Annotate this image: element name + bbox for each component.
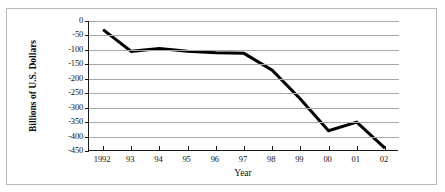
y-tick-label: -200 [68,74,83,83]
x-tick-label: 95 [182,154,190,164]
y-tick-mark [85,151,89,152]
y-tick-mark [85,93,89,94]
line-series-deficit [89,21,399,151]
y-tick-label: -400 [68,132,83,141]
x-tick-label: 94 [154,154,162,164]
x-tick-label: 1992 [94,154,111,164]
gridline-y [89,64,399,65]
x-tick-mark [216,146,217,150]
x-tick-mark [272,146,273,150]
gridline-y [89,137,399,138]
y-tick-label: -50 [72,30,83,39]
chart-figure: 0-50-100-150-200-250-300-350-400-450 Bil… [0,0,445,192]
y-tick-label: -350 [68,117,83,126]
y-axis-title-text: Billions of U.S. Dollars [26,21,40,151]
x-tick-label: 96 [211,154,219,164]
gridline-y [89,21,399,22]
x-tick-mark [159,146,160,150]
y-tick-label: -150 [68,59,83,68]
x-tick-mark [300,146,301,150]
y-tick-mark [85,122,89,123]
x-tick-mark [329,146,330,150]
x-tick-mark [357,146,358,150]
x-tick-label: 00 [323,154,331,164]
y-tick-label: -100 [68,45,83,54]
gridline-y [89,50,399,51]
y-axis-tick-labels: 0-50-100-150-200-250-300-350-400-450 [50,21,83,151]
x-tick-label: 01 [352,154,360,164]
gridline-y [89,35,399,36]
y-tick-mark [85,64,89,65]
y-tick-label: 0 [79,16,83,25]
gridline-y [89,93,399,94]
x-tick-label: 98 [267,154,275,164]
y-tick-mark [85,79,89,80]
x-tick-mark [244,146,245,150]
y-tick-label: -250 [68,88,83,97]
gridline-y [89,108,399,109]
x-tick-mark [188,146,189,150]
x-tick-mark [131,146,132,150]
series-polyline [103,30,385,148]
x-tick-label: 02 [380,154,388,164]
x-tick-mark [385,146,386,150]
gridline-y [89,122,399,123]
y-tick-mark [85,35,89,36]
y-tick-mark [85,50,89,51]
y-tick-label: -450 [68,146,83,155]
x-tick-label: 97 [239,154,247,164]
y-tick-label: -300 [68,103,83,112]
y-axis-title: Billions of U.S. Dollars [26,21,40,151]
y-tick-mark [85,108,89,109]
x-axis-tick-labels: 199293949596979899000102 [88,154,398,166]
y-tick-mark [85,137,89,138]
plot-area [88,21,398,151]
x-axis-title: Year [88,168,398,178]
x-tick-label: 93 [126,154,134,164]
y-tick-mark [85,21,89,22]
x-tick-label: 99 [295,154,303,164]
x-tick-mark [103,146,104,150]
gridline-y [89,79,399,80]
